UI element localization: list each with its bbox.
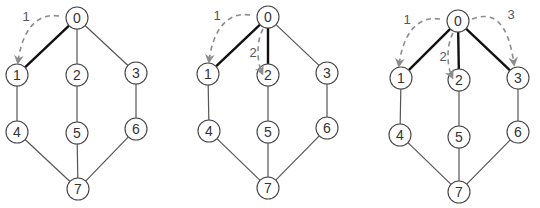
node-6: 6 — [125, 118, 147, 140]
node-label: 2 — [455, 72, 463, 88]
node-label: 2 — [264, 67, 272, 83]
node-label: 6 — [132, 121, 140, 137]
node-label: 0 — [264, 9, 272, 25]
node-6: 6 — [507, 121, 529, 143]
edge-4-7 — [25, 140, 70, 182]
node-0: 0 — [447, 10, 469, 32]
node-label: 5 — [73, 125, 81, 141]
traversal-arrow-0-to-2 — [448, 33, 453, 77]
node-7: 7 — [257, 177, 279, 199]
node-label: 7 — [74, 181, 82, 197]
highlighted-edge-0-3 — [466, 29, 510, 71]
node-1: 1 — [390, 67, 412, 89]
edge-1-4 — [208, 85, 209, 120]
edge-5-7 — [77, 144, 78, 178]
edge-1-4 — [400, 89, 401, 124]
panel-step-3: 01234567123 — [389, 7, 529, 203]
node-5: 5 — [66, 122, 88, 144]
node-0: 0 — [66, 7, 88, 29]
node-1: 1 — [6, 64, 28, 86]
traversal-order-label: 1 — [22, 9, 29, 24]
edge-6-7 — [467, 140, 511, 184]
node-label: 4 — [205, 123, 213, 139]
node-label: 4 — [13, 124, 21, 140]
node-label: 0 — [454, 13, 462, 29]
highlighted-edge-0-2 — [458, 32, 459, 69]
node-4: 4 — [389, 124, 411, 146]
node-label: 0 — [73, 10, 81, 26]
traversal-order-label: 3 — [507, 7, 514, 22]
node-label: 1 — [397, 70, 405, 86]
edge-4-7 — [408, 143, 451, 185]
node-label: 2 — [73, 67, 81, 83]
node-2: 2 — [448, 69, 470, 91]
bfs-diagram: 012345671012345671201234567123 — [0, 0, 540, 208]
panel-step-2: 0123456712 — [197, 6, 338, 199]
edge-4-7 — [217, 139, 260, 181]
node-label: 1 — [204, 66, 212, 82]
node-label: 3 — [514, 70, 522, 86]
node-label: 5 — [455, 129, 463, 145]
node-7: 7 — [448, 181, 470, 203]
node-label: 6 — [323, 120, 331, 136]
node-0: 0 — [257, 6, 279, 28]
node-label: 5 — [264, 124, 272, 140]
node-3: 3 — [125, 62, 147, 84]
node-2: 2 — [66, 64, 88, 86]
edge-6-7 — [276, 136, 320, 180]
node-5: 5 — [448, 126, 470, 148]
node-3: 3 — [507, 67, 529, 89]
node-label: 1 — [13, 67, 21, 83]
edge-0-3 — [85, 26, 128, 66]
node-6: 6 — [316, 117, 338, 139]
node-label: 6 — [514, 124, 522, 140]
node-3: 3 — [316, 62, 338, 84]
traversal-order-label: 1 — [213, 8, 220, 23]
node-label: 3 — [132, 65, 140, 81]
node-label: 7 — [264, 180, 272, 196]
node-1: 1 — [197, 63, 219, 85]
edge-6-7 — [86, 137, 129, 181]
traversal-order-label: 2 — [249, 45, 256, 60]
traversal-order-label: 1 — [403, 12, 410, 27]
node-4: 4 — [6, 121, 28, 143]
node-label: 3 — [323, 65, 331, 81]
node-4: 4 — [198, 120, 220, 142]
panel-step-1: 012345671 — [6, 7, 147, 200]
node-label: 7 — [455, 184, 463, 200]
highlighted-edge-0-1 — [25, 26, 69, 68]
node-7: 7 — [67, 178, 89, 200]
edge-0-3 — [276, 25, 319, 66]
node-5: 5 — [257, 121, 279, 143]
traversal-order-label: 2 — [439, 49, 446, 64]
node-label: 4 — [396, 127, 404, 143]
